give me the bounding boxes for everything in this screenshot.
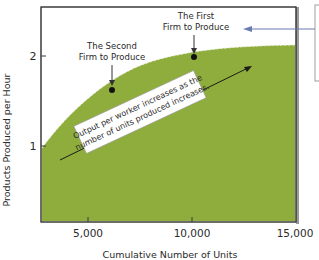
x-tick-label-10000: 10,000 bbox=[174, 227, 211, 239]
first-firm-label-line2: Firm to Produce bbox=[163, 22, 229, 32]
x-axis-title: Cumulative Number of Units bbox=[103, 249, 238, 260]
learning-curve-chart: 2 1 5,000 10,000 15,000 Cumulative Numbe… bbox=[0, 0, 319, 260]
first-firm-point bbox=[191, 54, 197, 60]
y-axis-title: Products Produced per Hour bbox=[1, 73, 12, 206]
y-tick-label-1: 1 bbox=[30, 140, 37, 153]
y-tick-label-2: 2 bbox=[30, 50, 37, 63]
x-tick-label-5000: 5,000 bbox=[73, 227, 103, 239]
external-callout-box bbox=[315, 5, 319, 81]
second-firm-label-line1: The Second bbox=[86, 41, 137, 51]
second-firm-point bbox=[109, 87, 115, 93]
x-tick-label-15000: 15,000 bbox=[277, 227, 314, 239]
first-firm-label-line1: The First bbox=[177, 11, 215, 21]
second-firm-label-line2: Firm to Produce bbox=[79, 52, 145, 62]
